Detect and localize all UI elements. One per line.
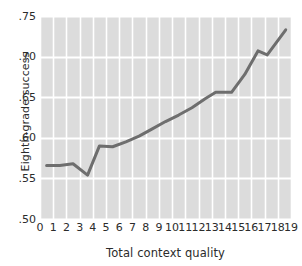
- x-axis-tick-label: 5: [103, 222, 110, 234]
- x-axis-tick-label: 19: [284, 222, 298, 234]
- x-axis-title: Total context quality: [40, 246, 291, 260]
- x-axis-tick-label: 12: [192, 222, 206, 234]
- gridlines: [40, 16, 291, 219]
- x-axis-tick-label: 10: [165, 222, 179, 234]
- x-axis-tick-label: 6: [116, 222, 123, 234]
- y-axis-tick-label: .70: [14, 51, 36, 62]
- chart-canvas: [40, 16, 291, 219]
- x-axis-tick-labels: 012345678910111213141516171819: [40, 222, 291, 238]
- x-axis-tick-label: 9: [155, 222, 162, 234]
- y-axis-tick-label: .55: [14, 173, 36, 184]
- y-axis-tick-label: .60: [14, 132, 36, 143]
- y-axis-tick-label: .65: [14, 92, 36, 103]
- plot-area: [40, 16, 291, 219]
- x-axis-tick-label: 4: [89, 222, 96, 234]
- x-axis-tick-label: 1: [50, 222, 57, 234]
- x-axis-tick-label: 0: [37, 222, 44, 234]
- x-axis-tick-label: 8: [142, 222, 149, 234]
- x-axis-tick-label: 7: [129, 222, 136, 234]
- data-line: [47, 30, 286, 175]
- x-axis-tick-label: 16: [244, 222, 258, 234]
- x-axis-tick-label: 11: [178, 222, 192, 234]
- x-axis-tick-label: 18: [271, 222, 285, 234]
- y-axis-tick-label: .50: [14, 214, 36, 225]
- y-axis-tick-label: .75: [14, 11, 36, 22]
- x-axis-tick-label: 14: [218, 222, 232, 234]
- data-series-group: [47, 30, 286, 175]
- x-axis-tick-label: 3: [76, 222, 83, 234]
- x-axis-tick-label: 17: [258, 222, 272, 234]
- x-axis-tick-label: 15: [231, 222, 245, 234]
- chart-figure: Eighth-grade success .50.55.60.65.70.75 …: [0, 0, 302, 266]
- y-axis-tick-labels: .50.55.60.65.70.75: [14, 0, 36, 266]
- x-axis-tick-label: 13: [205, 222, 219, 234]
- x-axis-tick-label: 2: [63, 222, 70, 234]
